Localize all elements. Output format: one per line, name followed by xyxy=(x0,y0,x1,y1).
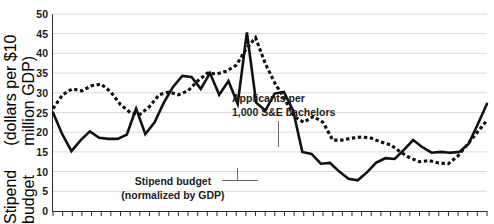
y-axis-tick-20: 20 xyxy=(26,126,48,138)
y-axis-tick-30: 30 xyxy=(26,87,48,99)
y-axis-tick-0: 0 xyxy=(26,205,48,217)
leader-line-stipend-horizontal xyxy=(222,180,258,181)
y-axis-tick-25: 25 xyxy=(26,107,48,119)
annotation-applicants-line1: Applicants per xyxy=(232,92,335,106)
y-axis-tick-35: 35 xyxy=(26,67,48,79)
chart-container: (dollars per $10 million GDP) Stipend bu… xyxy=(0,0,494,224)
y-axis-tick-40: 40 xyxy=(26,47,48,59)
y-axis-tick-15: 15 xyxy=(26,146,48,158)
annotation-applicants: Applicants per 1,000 S&E bachelors xyxy=(232,92,335,119)
leader-line-applicants xyxy=(278,121,279,147)
y-axis-tick-50: 50 xyxy=(26,8,48,20)
y-axis-tick-10: 10 xyxy=(26,166,48,178)
y-axis-tick-45: 45 xyxy=(26,28,48,40)
annotation-stipend-line1: Stipend budget xyxy=(108,175,238,189)
y-axis-tick-5: 5 xyxy=(26,185,48,197)
annotation-stipend: Stipend budget (normalized by GDP) xyxy=(108,175,238,202)
y-axis-tick-labels: 05101520253035404550 xyxy=(22,0,48,224)
leader-line-stipend-vertical xyxy=(237,168,238,181)
annotation-stipend-line2: (normalized by GDP) xyxy=(108,189,238,203)
annotation-applicants-line2: 1,000 S&E bachelors xyxy=(232,106,335,120)
